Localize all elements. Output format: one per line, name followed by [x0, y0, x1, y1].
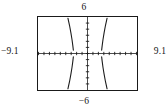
graph-figure: 6 −9.1 9.1 −6 [0, 0, 168, 108]
plot-canvas [38, 17, 137, 90]
curve-branch-lower-left [68, 57, 73, 89]
curve-branch-lower-right [102, 57, 107, 89]
plot-frame [37, 16, 138, 91]
curve-branch-upper-left [68, 18, 73, 50]
axis-layer [38, 17, 137, 90]
window-label-ymax: 6 [0, 3, 168, 13]
window-label-xmax: 9.1 [154, 47, 166, 57]
window-label-ymin: −6 [0, 97, 168, 107]
curve-branch-upper-right [102, 18, 107, 50]
window-label-xmin: −9.1 [1, 47, 19, 57]
